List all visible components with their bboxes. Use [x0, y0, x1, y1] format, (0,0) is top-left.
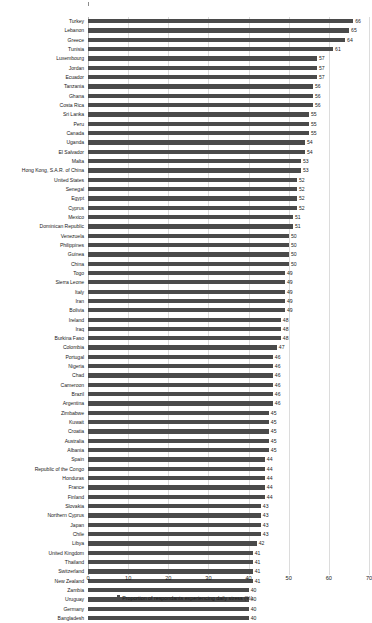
- bar: [88, 252, 289, 256]
- category-label: Greece: [0, 36, 88, 45]
- category-label: New Zealand: [0, 577, 88, 586]
- category-label: Iran: [0, 297, 88, 306]
- category-label-row: Kuwait: [0, 418, 88, 427]
- bar-value-label: 57: [317, 54, 325, 63]
- bar-row: 48: [88, 325, 369, 334]
- category-label-row: Albania: [0, 446, 88, 455]
- bar-value-label: 46: [273, 399, 281, 408]
- category-label: Ireland: [0, 316, 88, 325]
- category-label-row: Zimbabwe: [0, 409, 88, 418]
- bar-value-label: 55: [309, 110, 317, 119]
- category-label: El Salvador: [0, 148, 88, 157]
- bar-row: 46: [88, 362, 369, 371]
- category-label: Albania: [0, 446, 88, 455]
- bar: [88, 66, 317, 70]
- bar-row: 41: [88, 549, 369, 558]
- category-label-row: Turkey: [0, 17, 88, 26]
- category-label-row: Uganda: [0, 138, 88, 147]
- category-label: Turkey: [0, 17, 88, 26]
- category-label: Bolivia: [0, 306, 88, 315]
- category-label: Sri Lanka: [0, 110, 88, 119]
- bar-value-label: 46: [273, 371, 281, 380]
- category-label-row: Australia: [0, 437, 88, 446]
- bar-value-label: 61: [333, 45, 341, 54]
- bar-row: 50: [88, 241, 369, 250]
- bar: [88, 308, 285, 312]
- bar-value-label: 53: [301, 157, 309, 166]
- bar: [88, 131, 309, 135]
- category-label-row: Togo: [0, 269, 88, 278]
- bar-row: 50: [88, 250, 369, 259]
- bar: [88, 327, 281, 331]
- bar-value-label: 45: [269, 418, 277, 427]
- bar-row: 56: [88, 101, 369, 110]
- category-label-row: Guinea: [0, 250, 88, 259]
- bar-row: 45: [88, 418, 369, 427]
- bar-value-label: 56: [313, 101, 321, 110]
- bar: [88, 271, 285, 275]
- bar-row: 49: [88, 297, 369, 306]
- bar-row: 51: [88, 222, 369, 231]
- bar-row: 45: [88, 437, 369, 446]
- category-label-row: Senegal: [0, 185, 88, 194]
- bar: [88, 541, 257, 545]
- bar: [88, 150, 305, 154]
- bar-row: 66: [88, 17, 369, 26]
- category-label: Senegal: [0, 185, 88, 194]
- bar-value-label: 46: [273, 353, 281, 362]
- bar-value-label: 45: [269, 437, 277, 446]
- x-tick-label: 30: [205, 575, 211, 581]
- bar-value-label: 49: [285, 288, 293, 297]
- bar-value-label: 66: [353, 17, 361, 26]
- category-label: Hong Kong, S.A.R. of China: [0, 166, 88, 175]
- bar-row: 46: [88, 399, 369, 408]
- bar-value-label: 48: [281, 325, 289, 334]
- category-label: United States: [0, 176, 88, 185]
- bar-row: 43: [88, 502, 369, 511]
- category-label-row: Argentina: [0, 399, 88, 408]
- bar-row: 40: [88, 614, 369, 623]
- category-label: Burkina Faso: [0, 334, 88, 343]
- category-label: Sierra Leone: [0, 278, 88, 287]
- category-label-row: China: [0, 260, 88, 269]
- category-label: Spain: [0, 455, 88, 464]
- category-label: Mexico: [0, 213, 88, 222]
- top-axis-tick: [88, 2, 89, 6]
- bar: [88, 206, 297, 210]
- bar: [88, 112, 309, 116]
- category-label-row: Tanzania: [0, 82, 88, 91]
- category-label: Japan: [0, 521, 88, 530]
- category-label: Slovakia: [0, 502, 88, 511]
- bar-row: 44: [88, 483, 369, 492]
- category-label: Chile: [0, 530, 88, 539]
- bar-value-label: 49: [285, 297, 293, 306]
- bar-row: 50: [88, 260, 369, 269]
- category-label: Costa Rica: [0, 101, 88, 110]
- category-label-row: Philippines: [0, 241, 88, 250]
- category-label: Togo: [0, 269, 88, 278]
- category-label-row: Cameroon: [0, 381, 88, 390]
- bar-row: 49: [88, 269, 369, 278]
- bar-value-label: 44: [265, 483, 273, 492]
- legend-swatch-icon: [117, 595, 120, 598]
- bar: [88, 457, 265, 461]
- category-label-row: Ireland: [0, 316, 88, 325]
- category-label: Guinea: [0, 250, 88, 259]
- bar-value-label: 56: [313, 92, 321, 101]
- bar-row: 50: [88, 232, 369, 241]
- bar: [88, 19, 353, 23]
- bar: [88, 392, 273, 396]
- bar: [88, 168, 301, 172]
- bar-row: 52: [88, 185, 369, 194]
- bar: [88, 290, 285, 294]
- x-tick-label: 40: [245, 575, 251, 581]
- bar: [88, 140, 305, 144]
- bar: [88, 364, 273, 368]
- bar: [88, 560, 253, 564]
- bar: [88, 94, 313, 98]
- gridline-70: [369, 17, 370, 575]
- bar-value-label: 64: [345, 36, 353, 45]
- bar: [88, 299, 285, 303]
- category-label: Republic of the Congo: [0, 465, 88, 474]
- bar-row: 48: [88, 316, 369, 325]
